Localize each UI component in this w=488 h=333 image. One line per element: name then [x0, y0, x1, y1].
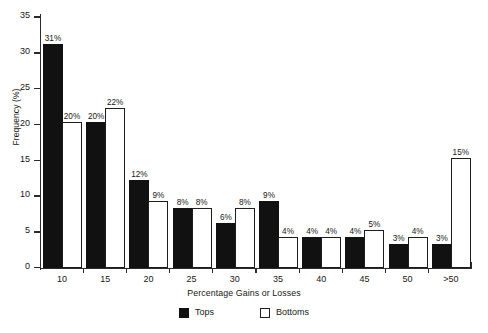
bar-tops-40: 4%: [302, 237, 322, 268]
bar-group: 20%22%15: [86, 14, 126, 269]
chart-legend: TopsBottoms: [0, 307, 488, 318]
legend-label: Bottoms: [276, 307, 309, 318]
y-tick-label: 35: [20, 10, 30, 21]
bar-value-label: 15%: [453, 148, 469, 158]
y-tick-label: 0: [25, 261, 30, 272]
y-tick-label: 30: [20, 46, 30, 57]
bar-bottoms-gt50: 15%: [451, 158, 471, 267]
bar-group: 9%4%35: [259, 14, 299, 269]
bar-value-label: 4%: [412, 227, 424, 237]
bar-value-label: 4%: [325, 227, 337, 237]
bar-value-label: 9%: [152, 191, 164, 201]
bar-value-label: 3%: [436, 234, 448, 244]
bar-value-label: 4%: [306, 227, 318, 237]
bar-bottoms-20: 9%: [148, 201, 168, 267]
bar-chart: Frequency (%) 05101520253035 31%20%1020%…: [0, 0, 488, 333]
x-axis-tick: [83, 269, 84, 273]
x-tick-label: 10: [43, 274, 81, 285]
bar-bottoms-35: 4%: [278, 237, 298, 268]
bar-value-label: 4%: [282, 227, 294, 237]
x-axis-tick: [342, 269, 343, 273]
legend-swatch-tops: [179, 308, 189, 318]
bar-value-label: 20%: [88, 112, 104, 122]
bar-bottoms-45: 5%: [364, 230, 384, 268]
bar-value-label: 12%: [131, 170, 147, 180]
bar-tops-gt50: 3%: [432, 244, 452, 267]
x-tick-label: 40: [302, 274, 340, 285]
bar-bottoms-30: 8%: [235, 208, 255, 267]
y-tick-label: 15: [20, 154, 30, 165]
bar-value-label: 3%: [393, 234, 405, 244]
bar-value-label: 9%: [263, 191, 275, 201]
bar-tops-20: 12%: [129, 180, 149, 268]
legend-item-bottoms: Bottoms: [260, 307, 309, 318]
bar-group: 8%8%25: [173, 14, 213, 269]
y-tick-mark: 20: [34, 124, 40, 125]
bar-tops-10: 31%: [43, 44, 63, 268]
x-axis-tick: [169, 269, 170, 273]
y-tick-label: 25: [20, 82, 30, 93]
x-axis-tick: [126, 269, 127, 273]
bar-group: 12%9%20: [129, 14, 169, 269]
y-tick-mark: 25: [34, 88, 40, 89]
x-tick-label: >50: [432, 274, 470, 285]
bar-tops-45: 4%: [345, 237, 365, 268]
bar-value-label: 8%: [239, 198, 251, 208]
bar-value-label: 31%: [45, 34, 61, 44]
y-tick-mark: 0: [34, 267, 40, 268]
bar-tops-35: 9%: [259, 201, 279, 267]
bar-group: 3%4%50: [389, 14, 429, 269]
bar-bottoms-40: 4%: [321, 237, 341, 268]
y-axis-line: [40, 14, 41, 270]
y-tick-mark: 35: [34, 16, 40, 17]
bar-tops-15: 20%: [86, 122, 106, 267]
y-tick-label: 20: [20, 118, 30, 129]
x-tick-label: 20: [129, 274, 167, 285]
bar-value-label: 8%: [177, 198, 189, 208]
bar-group: 4%4%40: [302, 14, 342, 269]
bar-tops-25: 8%: [173, 208, 193, 267]
bar-bottoms-50: 4%: [408, 237, 428, 268]
bar-bottoms-25: 8%: [192, 208, 212, 267]
x-axis-tick: [212, 269, 213, 273]
bar-bottoms-10: 20%: [62, 122, 82, 267]
x-axis-tick: [299, 269, 300, 273]
x-axis-tick: [255, 269, 256, 273]
y-tick-label: 5: [25, 225, 30, 236]
plot-area: 05101520253035 31%20%1020%22%1512%9%208%…: [40, 14, 472, 269]
x-axis-title: Percentage Gains or Losses: [0, 288, 488, 298]
legend-item-tops: Tops: [179, 307, 214, 318]
x-axis-tick: [428, 269, 429, 273]
bar-value-label: 22%: [107, 98, 123, 108]
x-tick-label: 15: [86, 274, 124, 285]
bar-group: 3%15%>50: [432, 14, 472, 269]
bar-value-label: 4%: [349, 227, 361, 237]
bar-value-label: 20%: [64, 112, 80, 122]
bar-tops-50: 3%: [389, 244, 409, 267]
y-tick-mark: 10: [34, 195, 40, 196]
bar-value-label: 8%: [196, 198, 208, 208]
x-tick-label: 30: [216, 274, 254, 285]
x-tick-label: 25: [173, 274, 211, 285]
y-tick-label: 10: [20, 189, 30, 200]
x-axis-tick: [385, 269, 386, 273]
bar-group: 31%20%10: [43, 14, 83, 269]
x-tick-label: 35: [259, 274, 297, 285]
bar-value-label: 6%: [220, 213, 232, 223]
bar-group: 4%5%45: [345, 14, 385, 269]
x-tick-label: 45: [345, 274, 383, 285]
bar-bottoms-15: 22%: [105, 108, 125, 268]
y-tick-mark: 15: [34, 160, 40, 161]
y-tick-mark: 30: [34, 52, 40, 53]
legend-swatch-bottoms: [260, 308, 270, 318]
bar-group: 6%8%30: [216, 14, 256, 269]
y-tick-mark: 5: [34, 231, 40, 232]
legend-label: Tops: [195, 307, 214, 318]
bar-tops-30: 6%: [216, 223, 236, 268]
x-tick-label: 50: [389, 274, 427, 285]
bar-value-label: 5%: [368, 220, 380, 230]
